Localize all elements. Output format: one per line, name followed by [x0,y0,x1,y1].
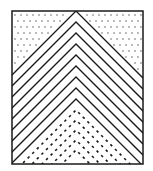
solid-chevron [0,77,153,171]
dashed-chevron [0,140,153,171]
solid-chevron [0,66,153,171]
solid-chevron [0,11,153,171]
dashed-chevron [0,130,153,171]
chevron-diagram [0,0,153,171]
dotted-texture [14,14,141,69]
solid-chevron [0,33,153,171]
solid-chevron-lines [0,11,153,171]
